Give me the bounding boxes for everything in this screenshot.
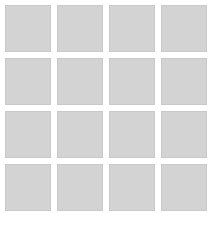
thumbnail-grid xyxy=(5,5,207,211)
thumbnail-tile-13[interactable] xyxy=(5,164,51,211)
thumbnail-tile-6[interactable] xyxy=(57,58,103,105)
thumbnail-tile-8[interactable] xyxy=(161,58,207,105)
thumbnail-tile-1[interactable] xyxy=(5,5,51,52)
bottom-label xyxy=(57,224,103,232)
thumbnail-tile-9[interactable] xyxy=(5,111,51,158)
bottom-label-row xyxy=(5,224,207,232)
thumbnail-tile-4[interactable] xyxy=(161,5,207,52)
bottom-label xyxy=(161,224,207,232)
thumbnail-tile-16[interactable] xyxy=(161,164,207,211)
thumbnail-tile-11[interactable] xyxy=(109,111,155,158)
thumbnail-tile-3[interactable] xyxy=(109,5,155,52)
thumbnail-tile-5[interactable] xyxy=(5,58,51,105)
thumbnail-tile-10[interactable] xyxy=(57,111,103,158)
thumbnail-tile-15[interactable] xyxy=(109,164,155,211)
bottom-label xyxy=(5,224,51,232)
thumbnail-tile-2[interactable] xyxy=(57,5,103,52)
thumbnail-tile-12[interactable] xyxy=(161,111,207,158)
thumbnail-tile-7[interactable] xyxy=(109,58,155,105)
bottom-label xyxy=(109,224,155,232)
thumbnail-tile-14[interactable] xyxy=(57,164,103,211)
